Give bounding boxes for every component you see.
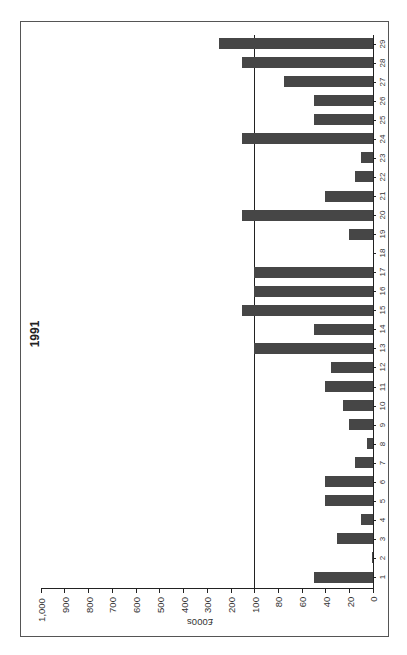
value-axis-tick-label: 20 [344, 597, 355, 608]
value-axis-tick [373, 588, 374, 593]
value-axis-tick-label: 40 [320, 597, 331, 608]
value-axis-tick [112, 588, 113, 593]
category-label: 7 [377, 460, 386, 464]
category-tick [373, 158, 376, 159]
value-axis-tick-label: 80 [273, 597, 284, 608]
category-tick [373, 291, 376, 292]
category-label: 5 [377, 499, 386, 503]
category-label: 29 [377, 39, 386, 48]
value-axis-tick-label: 0 [368, 597, 379, 602]
value-axis-tick-label: 100 [249, 597, 260, 613]
category-label: 19 [377, 230, 386, 239]
bar-category-27 [284, 76, 373, 87]
category-tick [373, 482, 376, 483]
category-tick [373, 501, 376, 502]
category-tick [373, 539, 376, 540]
value-axis-tick [278, 588, 279, 593]
value-axis-tick [325, 588, 326, 593]
bar-category-12 [331, 362, 372, 373]
category-label: 20 [377, 211, 386, 220]
bar-category-15 [242, 305, 372, 316]
category-tick [373, 425, 376, 426]
value-axis-tick [136, 588, 137, 593]
category-tick [373, 577, 376, 578]
category-label: 11 [377, 382, 386, 390]
value-axis-tick-label: 900 [59, 597, 70, 613]
category-label: 3 [377, 537, 386, 541]
category-label: 15 [377, 306, 386, 315]
category-label: 4 [377, 518, 386, 522]
category-label: 27 [377, 77, 386, 86]
category-label: 17 [377, 268, 386, 277]
bar-category-7 [355, 457, 373, 468]
bar-category-16 [254, 286, 372, 297]
bar-category-28 [242, 57, 372, 68]
bar-category-20 [242, 210, 372, 221]
category-label: 16 [377, 287, 386, 296]
bar-category-26 [314, 95, 373, 106]
category-label: 25 [377, 115, 386, 124]
category-tick [373, 196, 376, 197]
bar-category-29 [219, 38, 373, 49]
category-label: 14 [377, 325, 386, 334]
value-axis-tick-label: 500 [154, 597, 165, 613]
category-tick [373, 177, 376, 178]
category-tick [373, 558, 376, 559]
category-tick [373, 367, 376, 368]
bar-category-22 [355, 171, 373, 182]
bar-category-4 [361, 514, 373, 525]
category-tick [373, 120, 376, 121]
value-axis-tick [302, 588, 303, 593]
category-tick [373, 63, 376, 64]
bar-category-1 [314, 572, 373, 583]
value-axis-tick [231, 588, 232, 593]
value-axis-tick [349, 588, 350, 593]
category-label: 22 [377, 172, 386, 181]
value-axis-tick [183, 588, 184, 593]
category-tick [373, 101, 376, 102]
category-label: 26 [377, 96, 386, 105]
category-tick [373, 444, 376, 445]
category-tick [373, 234, 376, 235]
value-axis-tick-label: 600 [131, 597, 142, 613]
category-label: 28 [377, 58, 386, 67]
category-label: 6 [377, 480, 386, 484]
bar-category-14 [314, 324, 373, 335]
bar-category-23 [361, 152, 373, 163]
bar-category-21 [325, 191, 372, 202]
category-label: 24 [377, 134, 386, 143]
category-tick [373, 215, 376, 216]
value-axis-tick-label: 200 [226, 597, 237, 613]
category-tick [373, 387, 376, 388]
category-tick [373, 139, 376, 140]
value-axis-tick-label: 300 [202, 597, 213, 613]
category-tick [373, 82, 376, 83]
category-tick [373, 310, 376, 311]
value-axis-title: £000s [187, 617, 213, 628]
category-label: 8 [377, 441, 386, 445]
bar-category-6 [325, 476, 372, 487]
category-label: 10 [377, 401, 386, 410]
bar-category-3 [337, 533, 373, 544]
value-axis-baseline [373, 35, 374, 588]
value-axis-tick-label: 1,000 [36, 598, 47, 622]
bar-category-5 [325, 495, 372, 506]
category-label: 23 [377, 153, 386, 162]
category-label: 1 [377, 575, 386, 579]
bar-category-10 [343, 400, 373, 411]
category-tick [373, 348, 376, 349]
category-label: 18 [377, 249, 386, 258]
bar-category-25 [314, 114, 373, 125]
value-axis-tick [207, 588, 208, 593]
category-tick [373, 406, 376, 407]
value-axis-tick-label: 400 [178, 597, 189, 613]
value-axis-tick-label: 700 [107, 597, 118, 613]
category-tick [373, 520, 376, 521]
category-label: 9 [377, 422, 386, 426]
category-label: 12 [377, 363, 386, 372]
bar-category-9 [349, 419, 373, 430]
category-label: 2 [377, 556, 386, 560]
value-axis-tick [254, 588, 255, 593]
value-axis-tick [88, 588, 89, 593]
value-axis-tick [159, 588, 160, 593]
